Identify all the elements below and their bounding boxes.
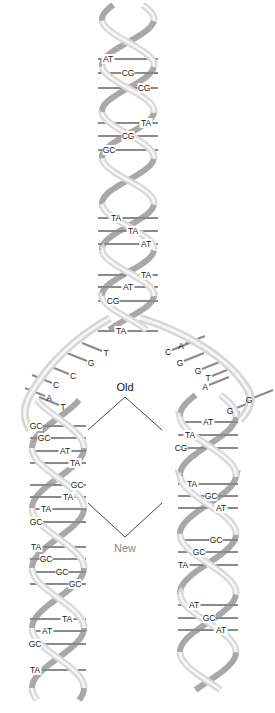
- left-daughter-base-pair-label: TA: [41, 504, 52, 514]
- dna-helix-illustration: ATCGCGTACGGCTATAATTAATCGTAGCGCATTAGCTATA…: [0, 0, 275, 713]
- parent-base-pair-label: TA: [141, 270, 152, 280]
- parent-base-pair-label: AT: [103, 54, 113, 64]
- dna-replication-diagram: ATCGCGTACGGCTATAATTAATCGTAGCGCATTAGCTATA…: [0, 0, 275, 713]
- left-daughter-base-pair-label: GC: [40, 554, 53, 564]
- fork-right-unpaired-base-label: A: [202, 382, 208, 392]
- left-daughter-strand-highlight: [32, 628, 84, 688]
- fork-left-unpaired-base-label: G: [88, 358, 95, 368]
- right-daughter-base-pair-label: GC: [193, 547, 206, 557]
- new-strand-pointer: [88, 503, 162, 537]
- fork-left-unpaired-base-label: T: [103, 348, 108, 358]
- parent-base-pair-label: TA: [116, 326, 127, 336]
- parent-base-pair-label: AT: [141, 239, 151, 249]
- fork-left-unpaired-base-stub: [67, 353, 87, 361]
- fork-left-unpaired-base-label: T: [60, 402, 65, 412]
- parent-base-pair-label: AT: [123, 282, 133, 292]
- right-daughter-base-pair-label: AT: [203, 417, 213, 427]
- right-daughter-base-pair-label: GC: [205, 491, 218, 501]
- right-daughter-base-pair-label: AT: [216, 625, 226, 635]
- left-daughter-base-pair-label: GC: [29, 639, 42, 649]
- fork-right-unpaired-base-label: G: [227, 406, 234, 416]
- fork-right-unpaired-base-label: G: [246, 395, 253, 405]
- left-daughter-strand-highlight: [32, 448, 84, 508]
- right-daughter-base-pair-label: TA: [187, 479, 198, 489]
- parent-base-pair-label: CG: [122, 68, 135, 78]
- right-daughter-base-pair-label: TA: [178, 560, 189, 570]
- left-daughter-base-pair-label: GC: [30, 517, 43, 527]
- fork-right-unpaired-base-label: G: [195, 366, 202, 376]
- parent-base-pair-label: TA: [111, 213, 122, 223]
- right-daughter-base-pair-label: AT: [216, 503, 226, 513]
- fork-right-unpaired-base-label: A: [178, 341, 184, 351]
- parent-base-pair-label: CG: [107, 296, 120, 306]
- left-daughter-base-pair-label: TA: [63, 492, 74, 502]
- fork-right-unpaired-base-stub: [209, 377, 229, 385]
- base-labels: ATCGCGTACGGCTATAATTAATCGTAGCGCATTAGCTATA…: [29, 54, 253, 675]
- left-daughter-base-pair-label: AT: [60, 446, 70, 456]
- left-daughter-base-pair-label: GC: [38, 433, 51, 443]
- left-daughter-base-pair-label: AT: [42, 626, 52, 636]
- right-daughter-base-pair-label: CG: [175, 443, 188, 453]
- old-strand-pointer: [88, 397, 162, 430]
- left-daughter-base-pair-label: TA: [70, 458, 81, 468]
- old-label: Old: [116, 381, 133, 393]
- parent-base-pair-label: TA: [141, 118, 152, 128]
- parent-base-pair-label: TA: [128, 226, 139, 236]
- old-new-diamond: [88, 397, 162, 537]
- fork-right-unpaired-base-label: C: [165, 347, 171, 357]
- left-daughter-base-pair-label: GC: [71, 480, 84, 490]
- left-daughter-base-pair-label: GC: [56, 567, 69, 577]
- fork-left-unpaired-base-stub: [82, 343, 102, 351]
- fork-left-unpaired-base-label: C: [53, 380, 59, 390]
- fork-right-unpaired-base-label: G: [177, 358, 184, 368]
- fork-left-unpaired-base-label: A: [46, 393, 52, 403]
- left-daughter-base-pair-label: GC: [69, 579, 82, 589]
- left-daughter-base-pair-label: TA: [31, 542, 42, 552]
- new-label: New: [114, 542, 136, 554]
- fork-left-unpaired-base-label: C: [70, 371, 76, 381]
- right-daughter-base-pair-label: GC: [203, 613, 216, 623]
- left-daughter-base-pair-label: TA: [62, 614, 73, 624]
- right-daughter-strand-segment: [180, 395, 196, 417]
- left-daughter-base-pair-label: GC: [30, 421, 43, 431]
- right-daughter-base-pair-label: AT: [189, 600, 199, 610]
- fork-right-unpaired-base-stub: [184, 353, 204, 361]
- parent-strand-segment: [102, 5, 113, 21]
- left-daughter-base-pair-label: TA: [30, 665, 41, 675]
- parent-base-pair-label: CG: [138, 83, 151, 93]
- parent-base-pair-label: CG: [122, 131, 135, 141]
- front-strands: [25, 5, 251, 700]
- right-daughter-base-pair-label: GC: [210, 535, 223, 545]
- parent-base-pair-label: GC: [103, 145, 116, 155]
- fork-right-unpaired-base-stub: [253, 390, 273, 398]
- left-daughter-strand-segment: [79, 688, 84, 700]
- right-daughter-base-pair-label: TA: [185, 430, 196, 440]
